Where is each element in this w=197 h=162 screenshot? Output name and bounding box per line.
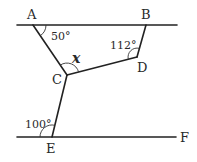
label-point-e: E xyxy=(46,141,56,156)
angle-label-a: 50° xyxy=(51,30,71,43)
label-point-d: D xyxy=(137,60,147,75)
angle-arc-a xyxy=(40,25,46,36)
angle-label-d: 112° xyxy=(110,39,137,52)
segment-db xyxy=(137,25,146,57)
label-point-b: B xyxy=(141,7,151,22)
angle-label-e: 100° xyxy=(25,118,52,131)
diagram-canvas: A B C D E F 50° 112° x 100° xyxy=(0,0,197,162)
geometry-figure: A B C D E F 50° 112° x 100° xyxy=(0,0,197,162)
label-point-a: A xyxy=(26,7,37,22)
angle-label-c-unknown: x xyxy=(71,50,81,66)
label-point-c: C xyxy=(52,72,62,87)
label-point-f: F xyxy=(180,130,189,145)
